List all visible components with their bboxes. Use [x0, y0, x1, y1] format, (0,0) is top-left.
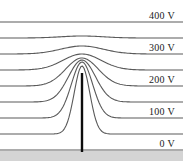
potential-contour-figure: 400 V 300 V 200 V 100 V 0 V	[0, 0, 183, 164]
level-label-200: 200 V	[149, 75, 175, 85]
substrate-band	[0, 151, 183, 161]
level-label-400: 400 V	[149, 11, 175, 21]
level-label-100: 100 V	[149, 107, 175, 117]
level-label-300: 300 V	[149, 43, 175, 53]
level-label-0: 0 V	[160, 139, 175, 149]
